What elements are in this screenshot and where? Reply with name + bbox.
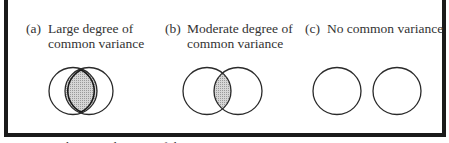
panel-a-venn [49,68,113,115]
venn-diagrams [0,0,449,143]
panel-b-venn [183,68,262,115]
panel-c-venn [313,68,421,115]
figure-caption: Figure 3 Schematic diagram of the [6,139,186,143]
